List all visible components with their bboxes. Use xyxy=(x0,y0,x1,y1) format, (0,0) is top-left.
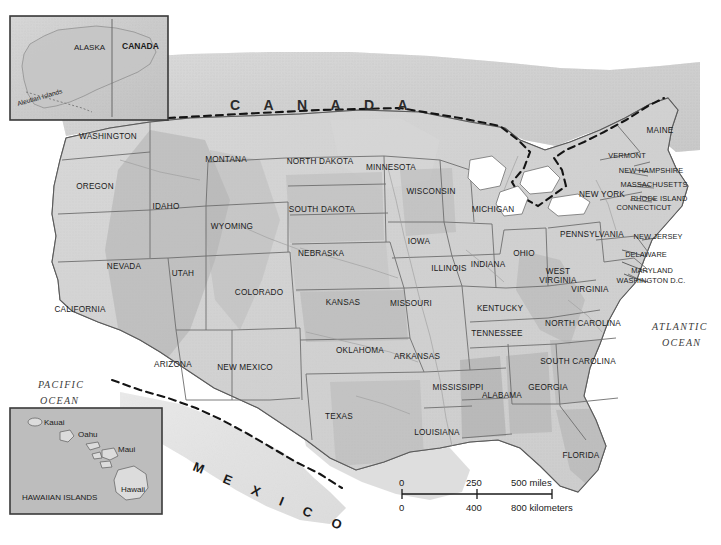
hawaiian-islands-label: HAWAIIAN ISLANDS xyxy=(22,493,97,502)
us-map: C A N A D A M E X I C O PACIFIC OCEAN AT… xyxy=(0,0,721,545)
scale-km-800: 800 kilometers xyxy=(511,502,573,513)
oahu-label: Oahu xyxy=(78,430,98,439)
state-label-va: VIRGINIA xyxy=(571,285,609,294)
state-label-ri: RHODE ISLAND xyxy=(631,194,688,203)
state-label-ny: NEW YORK xyxy=(579,190,625,199)
scale-km-400: 400 xyxy=(466,502,482,513)
state-label-ga: GEORGIA xyxy=(528,383,568,392)
state-label-nh: NEW HAMPSHIRE xyxy=(619,166,684,175)
state-label-nm: NEW MEXICO xyxy=(217,363,273,372)
state-label-mo: MISSOURI xyxy=(390,299,432,308)
state-label-nv: NEVADA xyxy=(107,262,142,271)
svg-text:OCEAN: OCEAN xyxy=(662,337,701,348)
svg-text:OCEAN: OCEAN xyxy=(40,395,79,406)
alaska-label: ALASKA xyxy=(74,43,106,52)
state-label-mi: MICHIGAN xyxy=(472,205,515,214)
state-label-dc: WASHINGTON D.C. xyxy=(617,276,686,285)
state-label-tx: TEXAS xyxy=(325,412,353,421)
hawaii-inset[interactable]: Kauai Oahu Maui Hawaii HAWAIIAN ISLANDS xyxy=(10,408,162,514)
state-label-ms: MISSISSIPPI xyxy=(433,383,484,392)
state-label-oh: OHIO xyxy=(513,249,535,258)
state-label-az: ARIZONA xyxy=(154,360,192,369)
alaska-inset[interactable]: ALASKA CANADA Aleutian Islands xyxy=(10,16,168,120)
state-label-nd: NORTH DAKOTA xyxy=(287,157,354,166)
state-label-sc: SOUTH CAROLINA xyxy=(540,357,616,366)
state-label-pa: PENNSYLVANIA xyxy=(560,230,624,239)
state-label-id: IDAHO xyxy=(153,202,180,211)
state-label-ky: KENTUCKY xyxy=(477,304,524,313)
state-label-nj: NEW JERSEY xyxy=(633,232,682,241)
state-label-ok: OKLAHOMA xyxy=(336,346,384,355)
canada-inset-label: CANADA xyxy=(122,41,159,51)
state-label-in: INDIANA xyxy=(471,260,506,269)
state-label-sd: SOUTH DAKOTA xyxy=(289,205,356,214)
state-label-mt: MONTANA xyxy=(205,155,247,164)
state-label-wy: WYOMING xyxy=(211,222,253,231)
state-label-ct: CONNECTICUT xyxy=(617,203,672,212)
state-label-ca: CALIFORNIA xyxy=(54,305,105,314)
state-label-ia: IOWA xyxy=(408,237,431,246)
scale-miles-500: 500 miles xyxy=(511,477,552,488)
state-label-nc: NORTH CAROLINA xyxy=(545,319,621,328)
state-label-de: DELAWARE xyxy=(625,250,667,259)
svg-text:PACIFIC: PACIFIC xyxy=(37,379,84,390)
state-label-wv2: VIRGINIA xyxy=(539,276,577,285)
state-label-la: LOUISIANA xyxy=(414,428,460,437)
state-label-ne: NEBRASKA xyxy=(298,249,345,258)
kauai-label: Kauai xyxy=(44,418,65,427)
state-label-or: OREGON xyxy=(76,182,114,191)
state-label-al: ALABAMA xyxy=(482,391,522,400)
state-label-tn: TENNESSEE xyxy=(471,329,523,338)
scale-km-0: 0 xyxy=(399,502,404,513)
scale-miles-0: 0 xyxy=(399,477,404,488)
state-label-fl: FLORIDA xyxy=(563,451,600,460)
state-label-wv: WEST xyxy=(546,267,570,276)
state-label-me: MAINE xyxy=(647,126,674,135)
state-label-ks: KANSAS xyxy=(326,298,361,307)
state-label-ar: ARKANSAS xyxy=(394,352,441,361)
state-label-il: ILLINOIS xyxy=(431,264,467,273)
scale-miles-250: 250 xyxy=(466,477,482,488)
state-label-mn: MINNESOTA xyxy=(366,163,416,172)
canada-label: C A N A D A xyxy=(230,97,418,113)
state-label-md: MARYLAND xyxy=(631,266,673,275)
hawaii-island-label: Hawaii xyxy=(121,485,145,494)
state-label-wa: WASHINGTON xyxy=(79,132,137,141)
state-label-wi: WISCONSIN xyxy=(406,187,455,196)
state-label-co: COLORADO xyxy=(235,288,283,297)
state-label-ut: UTAH xyxy=(172,269,194,278)
state-label-vt: VERMONT xyxy=(608,151,646,160)
svg-text:ATLANTIC: ATLANTIC xyxy=(651,321,708,332)
maui-label: Maui xyxy=(118,445,136,454)
state-label-ma: MASSACHUSETTS xyxy=(620,180,687,189)
